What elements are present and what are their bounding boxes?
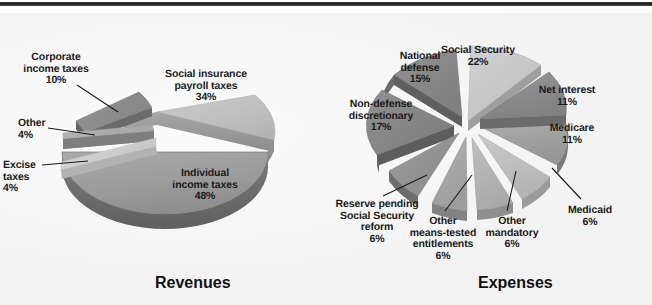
expenses-label-national-defense: National defense 15% — [388, 51, 452, 86]
revenues-chart-title: Revenues — [155, 274, 231, 292]
expenses-label-reserve-pending-social-security-reform: Reserve pending Social Security reform 6… — [326, 199, 428, 245]
expenses-label-medicaid: Medicaid 6% — [554, 205, 626, 228]
expenses-label-non-defense-discretionary: Non-defense discretionary 17% — [329, 99, 433, 134]
page-top-rule — [0, 2, 652, 6]
revenues-label-other: Other 4% — [18, 118, 78, 141]
revenues-label-individual-income-taxes: Individual income taxes 48% — [150, 168, 260, 203]
revenues-label-excise-taxes: Excise taxes 4% — [3, 160, 65, 195]
revenues-pie-panel: Social insurance payroll taxes 34% Indiv… — [0, 13, 326, 305]
expenses-label-medicare: Medicare 11% — [530, 123, 614, 146]
revenues-label-social-insurance-payroll-taxes: Social insurance payroll taxes 34% — [148, 69, 264, 104]
page-top-rule-tick — [246, 2, 247, 5]
expenses-label-net-interest: Net interest 11% — [522, 85, 612, 108]
expenses-pie-panel: Social Security 22% National defense 15%… — [326, 13, 652, 305]
figure-page: Social insurance payroll taxes 34% Indiv… — [0, 0, 652, 305]
expenses-chart-title: Expenses — [478, 274, 553, 292]
revenues-label-corporate-income-taxes: Corporate income taxes 10% — [6, 52, 106, 87]
